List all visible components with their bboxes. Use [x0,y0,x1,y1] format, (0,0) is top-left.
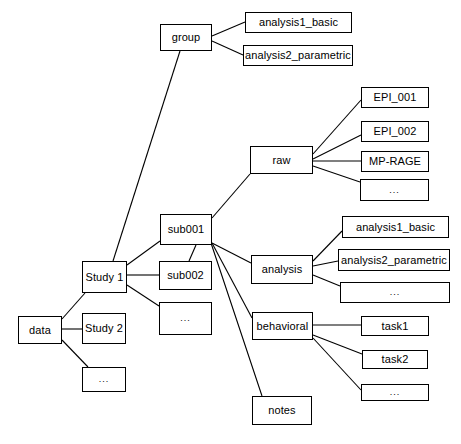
node-label: ... [99,375,110,384]
edge-sub001-to-sub002 [189,245,196,261]
node-behavioral[interactable]: behavioral [252,312,313,340]
node-label: ... [180,314,191,323]
node-label: analysis2_parametric [341,255,447,266]
node-label: data [29,325,51,336]
edge-data-to-study_more [62,340,88,367]
edge-group-to-group_analysis2 [212,41,243,55]
node-epi001[interactable]: EPI_001 [361,87,429,108]
node-sub_analysis2[interactable]: analysis2_parametric [338,249,450,271]
node-label: group [172,32,201,43]
node-study1[interactable]: Study 1 [82,261,127,293]
node-study_more[interactable]: ... [82,367,126,392]
node-task1[interactable]: task1 [361,316,429,336]
node-label: analysis [262,264,303,275]
node-epi002[interactable]: EPI_002 [361,121,429,142]
node-sub002[interactable]: sub002 [159,261,212,290]
node-analysis[interactable]: analysis [251,255,313,284]
node-notes[interactable]: notes [252,396,312,425]
node-raw_more[interactable]: ... [360,179,429,201]
node-label: EPI_001 [374,92,417,103]
node-label: raw [272,155,290,166]
edge-raw-to-epi001 [313,100,361,154]
edge-group-to-group_analysis1 [212,22,245,36]
edge-analysis-to-sub_analysis2 [313,261,338,266]
edge-sub001-to-raw [212,174,250,218]
node-sub_more[interactable]: ... [159,302,212,335]
edge-analysis-to-analysis_more [313,275,340,286]
node-study2[interactable]: Study 2 [82,313,126,344]
node-label: analysis1_basic [356,222,435,233]
node-label: behavioral [257,321,309,332]
node-label: sub002 [167,270,204,281]
node-label: notes [268,405,295,416]
node-label: ... [390,288,401,297]
node-data[interactable]: data [18,316,62,344]
node-label: analysis2_parametric [245,50,351,61]
edge-sub001-to-study1 [127,241,160,265]
node-label: MP-RAGE [369,156,421,167]
node-sub_analysis1[interactable]: analysis1_basic [342,216,449,238]
node-label: ... [389,186,400,195]
directory-structure-diagram: groupanalysis1_basicanalysis2_parametric… [0,0,461,444]
node-group[interactable]: group [160,24,212,51]
node-group_analysis2[interactable]: analysis2_parametric [243,45,353,66]
node-label: Study 2 [85,323,123,334]
node-label: sub001 [168,224,205,235]
node-analysis_more[interactable]: ... [340,282,450,303]
node-label: Study 1 [85,272,123,283]
node-raw[interactable]: raw [250,146,313,174]
node-label: ... [390,388,401,397]
node-behavioral_more[interactable]: ... [361,384,429,401]
edge-study1-to-sub_more [127,285,159,306]
node-label: analysis1_basic [259,17,338,28]
edge-raw-to-epi002 [313,135,361,159]
node-mprage[interactable]: MP-RAGE [361,151,429,172]
node-label: task1 [382,321,409,332]
node-task2[interactable]: task2 [362,350,428,369]
edge-raw-to-raw_more [313,166,360,182]
node-sub001[interactable]: sub001 [160,214,212,245]
node-group_analysis1[interactable]: analysis1_basic [245,12,352,33]
edge-behavioral-to-behavioral_more [313,338,361,390]
node-label: EPI_002 [374,126,417,137]
node-label: task2 [382,354,409,365]
edge-behavioral-to-task2 [313,335,362,354]
